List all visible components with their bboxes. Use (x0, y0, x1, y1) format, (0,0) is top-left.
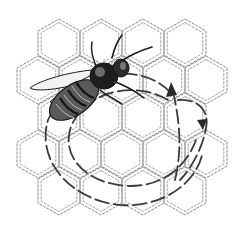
illustration: Line-art illustration of a honeybee on h… (0, 0, 243, 239)
bee-head (113, 59, 129, 77)
bee-antenna (112, 35, 122, 58)
bee-leg (100, 90, 122, 104)
bee (0, 0, 243, 239)
